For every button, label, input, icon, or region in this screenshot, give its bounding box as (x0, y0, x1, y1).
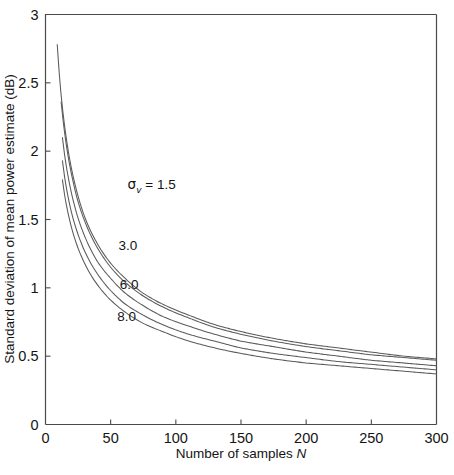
x-tick-label-250: 250 (359, 430, 383, 446)
annotation-sigma-3p0: 3.0 (118, 238, 137, 253)
y-tick-label-1.5: 1.5 (18, 212, 38, 228)
x-axis-title-symbol: N (297, 446, 307, 461)
y-tick-label-0.5: 0.5 (18, 348, 38, 364)
x-axis-title: Number of samples N (176, 446, 307, 461)
y-axis-title-group: Standard deviation of mean power estimat… (2, 74, 17, 364)
annotation-sigma-8p0: 8.0 (117, 309, 136, 324)
x-tick-label-50: 50 (103, 430, 119, 446)
annotation-sigma-6p0: 6.0 (120, 277, 139, 292)
y-tick-label-3: 3 (30, 7, 38, 23)
x-tick-label-150: 150 (229, 430, 253, 446)
y-tick-label-1: 1 (30, 280, 38, 296)
y-tick-label-2.5: 2.5 (18, 75, 38, 91)
y-axis-title: Standard deviation of mean power estimat… (2, 74, 17, 364)
annotation-sigma-v-1p5: σv = 1.5 (128, 176, 176, 195)
standard-deviation-vs-samples-chart: 050100150200250300 00.511.522.53 σv = 1.… (0, 0, 454, 475)
y-tick-label-2: 2 (30, 143, 38, 159)
y-tick-label-0: 0 (30, 417, 38, 433)
x-tick-label-200: 200 (294, 430, 318, 446)
x-tick-label-300: 300 (424, 430, 448, 446)
x-tick-label-100: 100 (164, 430, 188, 446)
x-axis-title-group: Number of samples N (176, 446, 307, 461)
figure-container: 050100150200250300 00.511.522.53 σv = 1.… (0, 0, 454, 475)
chart-background (0, 0, 454, 475)
sigma-value: = 1.5 (142, 177, 176, 192)
x-tick-label-0: 0 (41, 430, 49, 446)
x-axis-title-text: Number of samples (176, 446, 297, 461)
